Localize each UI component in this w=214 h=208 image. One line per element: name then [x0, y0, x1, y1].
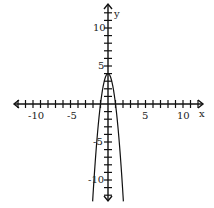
x-axis-label: x	[199, 108, 205, 119]
x-tick-label-neg5: -5	[67, 110, 77, 121]
y-tick-label-neg10: -10	[88, 174, 104, 185]
y-axis-label: y	[113, 8, 120, 19]
y-tick-label-10: 10	[93, 22, 106, 33]
x-tick-label-5: 5	[142, 110, 148, 121]
y-tick-label-5: 5	[98, 60, 104, 71]
chart-canvas: -10 -5 5 10 x 10 5 -5 -10 y	[0, 0, 214, 208]
x-tick-label-10: 10	[177, 110, 190, 121]
x-tick-label-neg10: -10	[28, 110, 44, 121]
y-tick-label-neg5: -5	[93, 136, 103, 147]
